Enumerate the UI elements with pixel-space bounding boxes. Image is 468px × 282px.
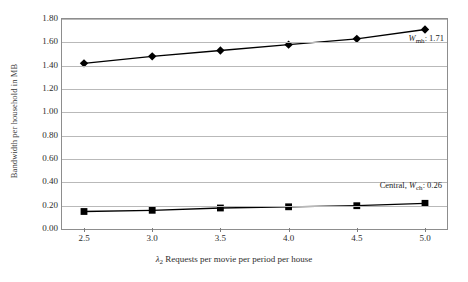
x-axis-tick-label: 2.5: [64, 233, 104, 243]
y-axis-tick-label: 0.40: [24, 176, 58, 186]
y-axis-tick-label: 0.60: [24, 153, 58, 163]
y-axis-tick-label: 0.20: [24, 200, 58, 210]
x-axis-tick-labels: 2.53.03.54.04.55.0: [61, 0, 448, 282]
x-axis-tick-mark: [220, 228, 221, 232]
y-axis-tick-label: 1.20: [24, 83, 58, 93]
x-axis-tick-label: 3.5: [200, 233, 240, 243]
y-axis-tick-label: 1.60: [24, 36, 58, 46]
chart-figure: Bandwidth per household in MB 0.000.200.…: [0, 0, 468, 282]
x-axis-tick-mark: [84, 228, 85, 232]
x-axis-tick-mark: [357, 228, 358, 232]
y-axis-tick-label: 1.00: [24, 106, 58, 116]
y-axis-title: Bandwidth per household in MB: [9, 21, 19, 221]
x-axis-title: λ2 Requests per movie per period per hou…: [0, 254, 468, 266]
x-axis-tick-mark: [152, 228, 153, 232]
y-axis-tick-label: 1.80: [24, 13, 58, 23]
x-axis-tick-mark: [289, 228, 290, 232]
y-axis-tick-labels: 0.000.200.400.600.801.001.201.401.601.80: [20, 0, 58, 282]
x-axis-tick-label: 5.0: [405, 233, 445, 243]
y-axis-tick-label: 0.00: [24, 223, 58, 233]
x-axis-tick-mark: [425, 228, 426, 232]
x-axis-tick-label: 4.5: [337, 233, 377, 243]
x-axis-tick-label: 4.0: [269, 233, 309, 243]
y-axis-tick-label: 1.40: [24, 60, 58, 70]
x-axis-tick-label: 3.0: [132, 233, 172, 243]
y-axis-tick-label: 0.80: [24, 130, 58, 140]
x-axis-title-rest: Requests per movie per period per house: [163, 254, 312, 264]
